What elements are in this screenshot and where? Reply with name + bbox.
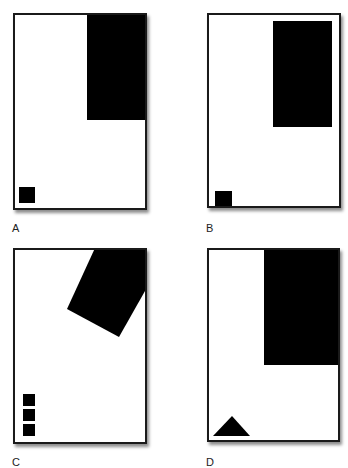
large-rectangle [273,21,332,127]
large-rectangle [87,13,147,120]
panel-c-label: C [12,456,20,468]
panel-d [207,248,340,442]
panel-c [13,248,147,444]
panel-b-label: B [206,222,213,234]
triangle [209,250,340,442]
small-square [19,187,35,203]
small-square-2 [23,409,35,421]
panel-b [207,13,341,208]
panel-d-label: D [206,456,214,468]
panel-a [13,13,147,210]
panel-a-label: A [12,222,19,234]
small-square-3 [23,424,35,436]
small-square-1 [23,394,35,406]
small-square [215,191,232,208]
